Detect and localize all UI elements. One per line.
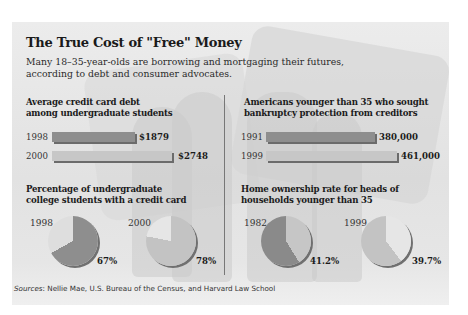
homes-value-1999: 39.7% xyxy=(412,256,441,266)
cards-value-2000: 78% xyxy=(196,256,216,266)
bankruptcy-value-1999: 461,000 xyxy=(401,151,440,161)
infographic-title: The True Cost of "Free" Money xyxy=(26,35,242,50)
cards-year-1998: 1998 xyxy=(30,218,53,228)
bankruptcy-bar-1991 xyxy=(266,132,375,142)
bankruptcy-value-1991: 380,000 xyxy=(379,132,418,142)
homes-chart-title: Home ownership rate for heads of househo… xyxy=(241,184,399,206)
cards-year-2000: 2000 xyxy=(128,218,151,228)
debt-chart-title: Average credit card debt among undergrad… xyxy=(26,97,173,119)
bankruptcy-year-1991: 1991 xyxy=(241,132,263,142)
cards-pie-2000 xyxy=(146,216,196,266)
bankruptcy-bar-1999 xyxy=(266,151,397,161)
homes-pie-1999 xyxy=(361,216,411,266)
homes-year-1982: 1982 xyxy=(244,218,267,228)
debt-year-2000: 2000 xyxy=(26,151,48,161)
cards-pie-1998 xyxy=(48,216,98,266)
infographic-subtitle: Many 18–35-year-olds are borrowing and m… xyxy=(26,56,356,80)
homes-value-1982: 41.2% xyxy=(310,256,339,266)
sources-note: Sources: Nellie Mae, U.S. Bureau of the … xyxy=(14,284,275,293)
homes-year-1999: 1999 xyxy=(344,218,367,228)
bankruptcy-chart-title: Americans younger than 35 who sought ban… xyxy=(244,97,428,119)
cards-value-1998: 67% xyxy=(97,256,117,266)
debt-value-1998: $1879 xyxy=(139,132,169,142)
debt-value-2000: $2748 xyxy=(178,151,208,161)
column-divider xyxy=(224,95,225,275)
debt-bar-1998 xyxy=(52,132,135,142)
bankruptcy-year-1999: 1999 xyxy=(241,151,263,161)
debt-year-1998: 1998 xyxy=(26,132,48,142)
debt-bar-2000 xyxy=(52,151,172,161)
homes-pie-1982 xyxy=(261,216,311,266)
cards-chart-title: Percentage of undergraduate college stud… xyxy=(26,184,186,206)
